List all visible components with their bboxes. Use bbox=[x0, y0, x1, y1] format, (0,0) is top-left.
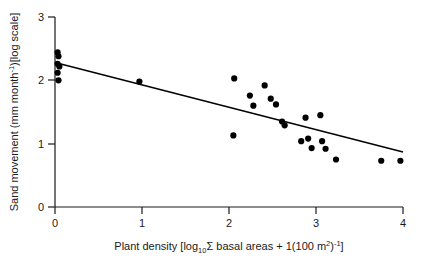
y-tick-label-1: 1 bbox=[38, 138, 44, 150]
y-axis-tick-labels: 3 2 1 0 bbox=[38, 11, 44, 213]
scatter-point bbox=[378, 158, 384, 164]
y-tick-label-0: 0 bbox=[38, 201, 44, 213]
scatter-point bbox=[397, 158, 403, 164]
scatter-point bbox=[56, 63, 62, 69]
scatter-point bbox=[333, 156, 339, 162]
scatter-point bbox=[231, 75, 237, 81]
scatter-point bbox=[55, 70, 61, 76]
y-title-sup-neg1: -1 bbox=[7, 66, 16, 73]
y-title-lead: Sand movement (mm month bbox=[8, 73, 20, 212]
scatter-point bbox=[319, 138, 325, 144]
scatter-point bbox=[230, 132, 236, 138]
x-axis-title: Plant density [log10Σ basal areas + 1(10… bbox=[114, 239, 343, 255]
x-tick-label-3: 3 bbox=[313, 217, 319, 229]
scatter-point bbox=[273, 101, 279, 107]
x-tick-label-4: 4 bbox=[400, 217, 406, 229]
y-axis-title: Sand movement (mm month-1)[log scale] bbox=[7, 13, 20, 212]
scatter-point bbox=[302, 115, 308, 121]
scatter-point bbox=[305, 136, 311, 142]
plot-canvas: 3 2 1 0 0 1 2 3 4 Plant density [log10Σ … bbox=[0, 0, 424, 259]
x-tick-label-2: 2 bbox=[226, 217, 232, 229]
scatter-point bbox=[282, 122, 288, 128]
regression-trendline bbox=[55, 63, 403, 152]
y-axis-ticks bbox=[48, 17, 55, 207]
x-tick-label-0: 0 bbox=[52, 217, 58, 229]
scatter-point bbox=[55, 53, 61, 59]
x-title-sup-neg1: -1 bbox=[334, 239, 341, 248]
y-title-tail: )[log scale] bbox=[8, 13, 20, 66]
x-axis-tick-labels: 0 1 2 3 4 bbox=[52, 217, 406, 229]
x-title-tail: ] bbox=[341, 240, 344, 252]
x-title-sub-10: 10 bbox=[198, 246, 206, 255]
scatter-point bbox=[317, 112, 323, 118]
scatter-point bbox=[55, 77, 61, 83]
scatter-point bbox=[262, 82, 268, 88]
scatter-point bbox=[247, 92, 253, 98]
x-tick-label-1: 1 bbox=[139, 217, 145, 229]
x-title-mid: basal areas + 1(100 m bbox=[213, 240, 326, 252]
scatter-point bbox=[268, 96, 274, 102]
scatter-point bbox=[322, 146, 328, 152]
scatter-plot-figure: 3 2 1 0 0 1 2 3 4 Plant density [log10Σ … bbox=[0, 0, 424, 259]
scatter-point bbox=[309, 145, 315, 151]
x-axis-ticks bbox=[55, 207, 403, 214]
y-tick-label-3: 3 bbox=[38, 11, 44, 23]
scatter-point bbox=[136, 79, 142, 85]
x-title-lead: Plant density [log bbox=[114, 240, 198, 252]
scatter-point bbox=[250, 103, 256, 109]
y-tick-label-2: 2 bbox=[38, 74, 44, 86]
scatter-point bbox=[298, 138, 304, 144]
